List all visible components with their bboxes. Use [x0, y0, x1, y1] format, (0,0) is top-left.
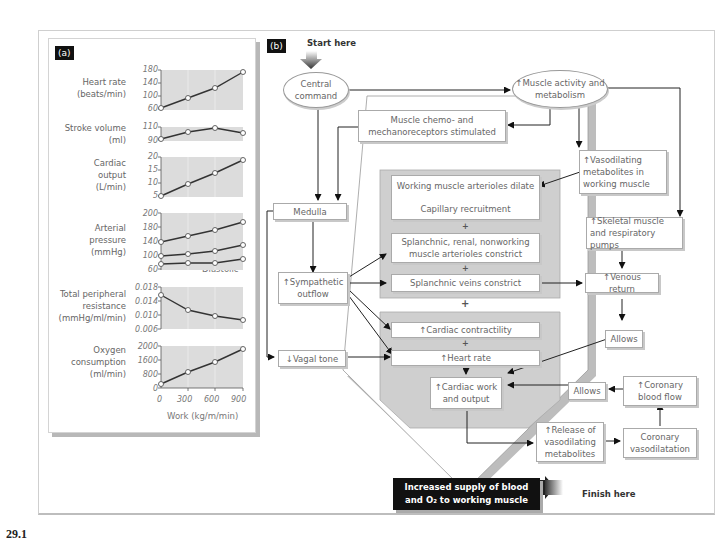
plus-sign-large: + [461, 298, 469, 309]
node-cardiac-contractility: ↑Cardiac contractility [391, 322, 540, 338]
result-line-2: and O₂ to working muscle [405, 494, 528, 507]
node-vagal-tone: ↓Vagal tone [278, 350, 346, 367]
node-muscle-activity: ↑Muscle activity and metabolism [512, 70, 608, 108]
node-chemo-receptors: Muscle chemo- and mechanoreceptors stimu… [358, 110, 506, 142]
start-here-label: Start here [307, 38, 356, 48]
node-splanchnic-veins: Splanchnic veins constrict [391, 274, 540, 292]
plus-sign: + [462, 222, 469, 231]
node-vasodilating-metabolites: ↑Vasodilating metabolites in working mus… [579, 150, 667, 194]
finish-here-label: Finish here [582, 489, 636, 499]
result-line-1: Increased supply of blood [405, 481, 529, 494]
node-venous-return: ↑Venous return [585, 273, 659, 293]
node-skeletal-pumps: ↑Skeletal muscle and respiratory pumps [586, 217, 683, 249]
node-coronary-vasodilatation: Coronary vasodilatation [623, 428, 697, 458]
node-capillary-recruitment: Capillary recruitment [392, 200, 539, 218]
node-sympathetic-outflow: ↑Sympathetic outflow [278, 272, 348, 304]
node-central-command: Central command [283, 72, 349, 108]
node-allows-2: Allows [568, 382, 606, 400]
node-coronary-flow: ↑Coronary blood flow [623, 376, 697, 406]
node-allows-1: Allows [605, 330, 643, 348]
panel-b-tag: (b) [267, 39, 286, 53]
node-medulla: Medulla [273, 203, 347, 220]
node-cardiac-work: ↑Cardiac work and output [430, 377, 502, 409]
node-heart-rate: ↑Heart rate [391, 350, 540, 366]
node-splanchnic-arterioles: Splanchnic, renal, nonworking muscle art… [391, 233, 540, 263]
plus-sign: + [462, 264, 469, 273]
plus-sign: + [462, 339, 469, 348]
node-release-metabolites: ↑Release of vasodilating metabolites [536, 422, 604, 462]
result-box: Increased supply of blood and O₂ to work… [393, 478, 540, 510]
